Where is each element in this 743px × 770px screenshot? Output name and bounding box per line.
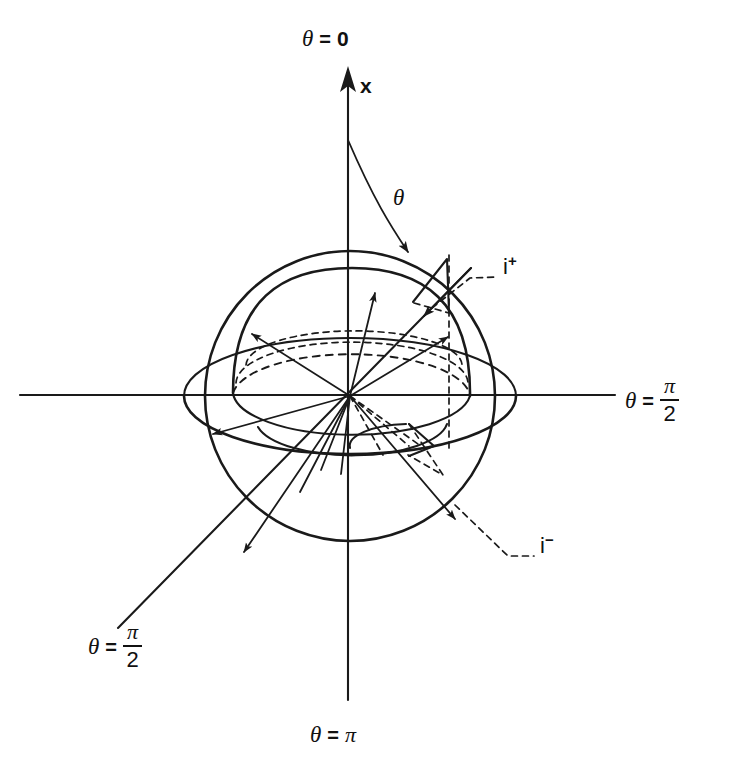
theta-symbol-top: θ: [302, 26, 313, 52]
equals-top: =: [319, 28, 331, 51]
i-plus-sign: +: [508, 252, 517, 269]
numerator-right: π: [661, 375, 678, 397]
equals-bottom: =: [327, 724, 339, 747]
theta-symbol-bottom: θ: [310, 722, 321, 748]
label-i-plus: i+: [503, 252, 517, 280]
value-top: 0: [337, 27, 349, 51]
leader-line-i-plus: [432, 277, 497, 308]
equals-lower-left: =: [105, 636, 117, 659]
theta-symbol-lower-left: θ: [88, 634, 99, 660]
theta-symbol-right: θ: [625, 388, 636, 414]
denominator-right: 2: [660, 403, 678, 425]
figure-canvas: θ = 0 x θ θ = π 2 θ = π 2 θ = π i+ i−: [0, 0, 743, 770]
label-theta-equals-pi: θ = π: [310, 722, 356, 748]
value-bottom: π: [345, 722, 356, 748]
equals-right: =: [642, 390, 654, 413]
label-theta-equals-pi-over-2-right: θ = π 2: [625, 376, 679, 427]
angle-label-theta: θ: [393, 185, 404, 211]
fraction-lower-left: π 2: [123, 621, 142, 672]
hemisphere-dome: [233, 268, 470, 435]
numerator-lower-left: π: [124, 621, 141, 643]
i-minus-sign: −: [545, 531, 554, 548]
leader-line-i-minus: [455, 505, 534, 556]
label-theta-equals-pi-over-2-lower-left: θ = π 2: [88, 622, 142, 673]
fraction-right: π 2: [660, 375, 679, 426]
label-theta-equals-zero: θ = 0: [302, 26, 349, 52]
axis-label-x: x: [360, 74, 372, 98]
label-i-minus: i−: [540, 531, 554, 559]
denominator-lower-left: 2: [123, 649, 141, 671]
